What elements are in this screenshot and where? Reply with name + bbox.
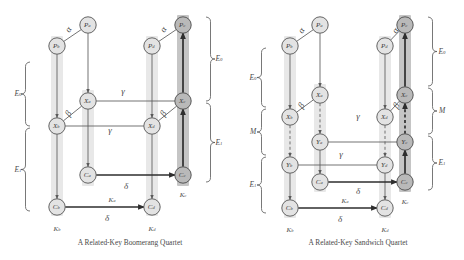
caption-boomerang: A Related-Key Boomerang Quartet xyxy=(78,238,183,247)
node-Pb: Pb xyxy=(282,38,298,54)
key-label-boomerang-Kc: Kc xyxy=(179,191,187,199)
brace-label-boomerang-E0: E0 xyxy=(215,54,224,63)
greek-label-boomerang-6: δ xyxy=(124,181,129,191)
node-Pc: Pc xyxy=(175,17,191,33)
brace-boomerang-1 xyxy=(21,128,30,211)
key-label-sandwich-Ka: Ka xyxy=(341,197,350,205)
node-Yc: Yc xyxy=(397,134,413,150)
brace-boomerang-3 xyxy=(206,103,215,182)
node-Yd: Yd xyxy=(377,157,393,173)
key-label-boomerang-Kb: Kb xyxy=(53,225,62,233)
key-label-boomerang-Ka: Ka xyxy=(108,196,117,204)
quartet-diagram-svg: E0E1E0E1E0ME1E0ME1 PaPbPcPdXaXbXcXdCaCbC… xyxy=(0,0,464,260)
key-label-sandwich-Kc: Kc xyxy=(401,198,409,206)
node-Pd: Pd xyxy=(144,38,160,54)
brace-label-sandwich-E1: E1 xyxy=(438,158,446,167)
node-Cb: Cb xyxy=(49,199,65,215)
brace-sandwich-0 xyxy=(257,48,266,107)
node-Xd: Xd xyxy=(377,109,393,125)
node-Xb: Xb xyxy=(49,118,65,134)
node-Xa: Xa xyxy=(80,93,96,109)
brace-sandwich-4 xyxy=(428,88,437,134)
node-Ca: Ca xyxy=(80,167,96,183)
node-Cd: Cd xyxy=(144,199,160,215)
node-Cc: Cc xyxy=(397,174,413,190)
node-Cc: Cc xyxy=(175,167,191,183)
figure-root: E0E1E0E1E0ME1E0ME1 PaPbPcPdXaXbXcXdCaCbC… xyxy=(0,0,464,260)
brace-boomerang-0 xyxy=(21,62,30,126)
brace-label-sandwich-M: M xyxy=(438,106,446,115)
node-Pd: Pd xyxy=(377,38,393,54)
edges-layer xyxy=(57,30,405,208)
node-Yb: Yb xyxy=(282,157,298,173)
node-Cd: Cd xyxy=(377,200,393,216)
key-label-sandwich-Kd: Kd xyxy=(381,226,390,234)
greek-label-boomerang-3: γ xyxy=(108,125,112,135)
greek-label-sandwich-6: δ xyxy=(356,186,361,196)
key-label-sandwich-Kb: Kb xyxy=(286,226,295,234)
node-Ca: Ca xyxy=(312,174,328,190)
node-Xc: Xc xyxy=(175,93,191,109)
node-Xc: Xc xyxy=(397,87,413,103)
greek-label-sandwich-7: δ xyxy=(338,214,343,224)
brace-sandwich-1 xyxy=(257,109,266,155)
greek-label-boomerang-7: δ xyxy=(105,213,110,223)
greek-label-sandwich-2: γ xyxy=(356,111,360,121)
node-Ya: Ya xyxy=(312,134,328,150)
node-Pa: Pa xyxy=(312,17,328,33)
greek-label-boomerang-2: γ xyxy=(121,86,125,96)
brace-label-boomerang-E1: E1 xyxy=(215,138,223,147)
brace-label-sandwich-E0: E0 xyxy=(438,47,447,56)
brace-label-boomerang-E0: E0 xyxy=(14,89,23,98)
key-label-boomerang-Kd: Kd xyxy=(148,225,157,233)
brace-boomerang-2 xyxy=(206,17,215,101)
greek-label-sandwich-0: α xyxy=(296,26,307,36)
greek-label-sandwich-3: γ xyxy=(339,149,343,159)
node-Xb: Xb xyxy=(282,109,298,125)
labels-layer: αβγγαβδδKaKbKcKdαβγγαβδδKaKbKcKd xyxy=(53,25,409,234)
node-Xd: Xd xyxy=(144,118,160,134)
caption-sandwich: A Related-Key Sandwich Quartet xyxy=(308,238,408,247)
greek-label-boomerang-0: α xyxy=(63,25,74,35)
node-Xa: Xa xyxy=(312,87,328,103)
brace-label-sandwich-E1: E1 xyxy=(249,180,257,189)
node-Cb: Cb xyxy=(282,200,298,216)
brace-sandwich-3 xyxy=(428,17,437,86)
node-Pb: Pb xyxy=(49,38,65,54)
greek-label-boomerang-4: α xyxy=(158,25,169,35)
brace-label-boomerang-E1: E1 xyxy=(14,165,22,174)
brace-sandwich-2 xyxy=(257,157,266,213)
node-Pa: Pa xyxy=(80,17,96,33)
brace-label-sandwich-M: M xyxy=(249,127,257,136)
brace-label-sandwich-E0: E0 xyxy=(249,73,258,82)
brace-sandwich-5 xyxy=(428,136,437,190)
